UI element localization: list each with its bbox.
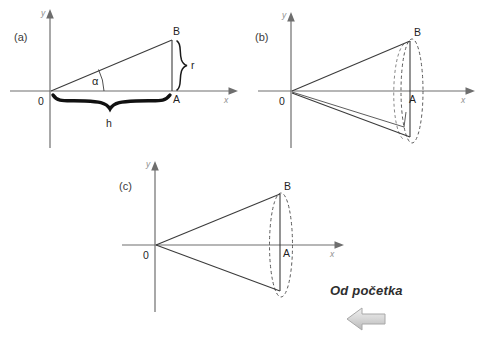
panel-a: y x (a) 0 α B A r h xyxy=(10,8,238,148)
panel-a-x-axis-label: x xyxy=(223,95,229,105)
panel-a-y-axis xyxy=(46,9,54,148)
panel-c-x-axis-label: x xyxy=(329,249,335,259)
panel-c-point-a-label: A xyxy=(283,247,290,259)
panel-c-point-b-label: B xyxy=(284,180,291,192)
panel-a-x-axis xyxy=(10,87,238,94)
panel-a-point-b-label: B xyxy=(173,25,180,37)
panel-c: y x (c) 0 B A xyxy=(119,159,344,312)
panel-a-y-axis-label: y xyxy=(40,8,46,18)
panel-c-y-axis xyxy=(151,161,159,312)
panel-a-angle-arc xyxy=(99,70,105,92)
panel-c-y-axis-label: y xyxy=(145,159,151,169)
panel-a-point-a-label: A xyxy=(173,93,180,105)
panel-c-label: (c) xyxy=(119,180,132,192)
panel-b-y-axis-label: y xyxy=(281,10,287,20)
figure-root: y x (a) 0 α B A r h xyxy=(0,0,495,345)
panel-b-origin-label: 0 xyxy=(279,95,285,107)
panel-a-triangle xyxy=(51,40,172,91)
panel-b-y-axis xyxy=(287,12,295,148)
panel-b-label: (b) xyxy=(255,31,268,43)
panel-a-angle-label: α xyxy=(92,75,99,87)
panel-b-triangle-upper xyxy=(292,41,410,137)
panel-c-cone-outline xyxy=(156,194,280,291)
panel-b-rotated-generators xyxy=(292,92,410,137)
panel-b-x-axis-label: x xyxy=(460,95,466,105)
annotation-text: Od početka xyxy=(330,283,403,298)
panel-a-height-label: h xyxy=(106,117,112,129)
panel-a-label: (a) xyxy=(14,31,27,43)
panel-b-point-a-label: A xyxy=(409,93,416,105)
arrow-left-icon xyxy=(347,308,385,330)
panel-a-origin-label: 0 xyxy=(38,95,44,107)
panel-b-point-b-label: B xyxy=(414,26,421,38)
panel-b: y x (b) 0 B A xyxy=(255,10,475,148)
panel-a-radius-label: r xyxy=(191,59,195,71)
panel-a-radius-brace xyxy=(177,41,187,90)
figure-canvas: y x (a) 0 α B A r h xyxy=(0,0,495,345)
panel-c-origin-label: 0 xyxy=(143,249,149,261)
panel-a-height-brace xyxy=(53,95,170,109)
